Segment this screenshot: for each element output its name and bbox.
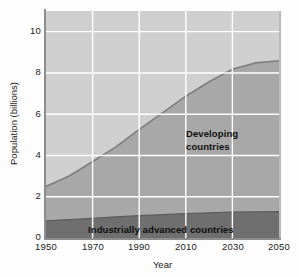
plot-area: Developing countries Industrially advanc… [46,11,279,238]
x-axis-title: Year [46,259,279,270]
y-axis-title: Population (billions) [8,49,19,199]
population-area-chart: Developing countries Industrially advanc… [0,0,299,277]
x-tick-1990: 1990 [117,241,161,252]
x-tick-2010: 2010 [164,241,208,252]
x-axis-line [44,238,281,240]
y-tick-labels: 10 8 6 4 2 0 [0,0,41,277]
chart-svg [46,11,279,238]
x-tick-1970: 1970 [71,241,115,252]
series-label-industrial: Industrially advanced countries [88,224,279,237]
x-tick-1950: 1950 [24,241,68,252]
x-tick-2030: 2030 [211,241,255,252]
series-label-developing-line2: countries [186,141,230,152]
series-label-developing: Developing countries [186,128,279,153]
plot-right-edge [279,11,281,240]
x-tick-2050: 2050 [257,241,299,252]
y-axis-line [44,9,46,240]
y-tick-10: 10 [1,26,41,36]
series-label-developing-line1: Developing [186,128,238,139]
